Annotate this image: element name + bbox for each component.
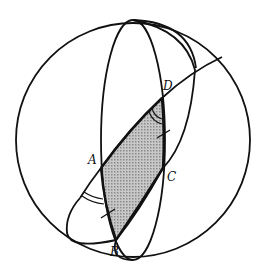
label-B: B [109, 245, 119, 259]
sphere-diagram: A B C D [0, 0, 266, 276]
label-C: C [167, 170, 176, 184]
label-A: A [87, 153, 97, 167]
label-D: D [162, 79, 173, 93]
angle-mark-A-inner [84, 192, 103, 199]
